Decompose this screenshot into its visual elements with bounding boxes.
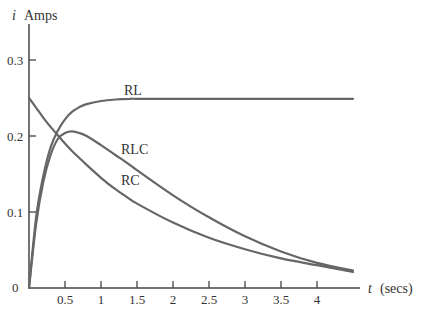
x-tick-label: 2.5 <box>201 292 217 307</box>
x-tick-label: 2 <box>170 292 177 307</box>
x-tick-label: 4 <box>314 292 321 307</box>
chart: 0.10.20.3 0.511.522.533.54 RLRLCRC 0 i A… <box>0 0 435 311</box>
x-tick-label: 1.5 <box>129 292 145 307</box>
y-axis-unit: Amps <box>24 8 57 23</box>
curve-label-rl: RL <box>124 83 142 98</box>
curve-label-rlc: RLC <box>121 142 148 157</box>
y-tick-label: 0.1 <box>7 205 23 220</box>
curve-rc <box>29 98 353 272</box>
x-tick-label: 1 <box>98 292 105 307</box>
origin-label: 0 <box>12 280 19 295</box>
x-ticks: 0.511.522.533.54 <box>57 281 321 307</box>
x-axis-var: t <box>368 281 373 296</box>
y-axis-var: i <box>12 8 16 23</box>
x-tick-label: 3.5 <box>273 292 289 307</box>
y-tick-label: 0.3 <box>7 53 23 68</box>
x-tick-label: 0.5 <box>57 292 73 307</box>
y-tick-label: 0.2 <box>7 129 23 144</box>
curves <box>29 98 353 288</box>
y-ticks: 0.10.20.3 <box>7 53 36 220</box>
x-axis-unit: (secs) <box>380 281 413 297</box>
x-tick-label: 3 <box>242 292 249 307</box>
curve-label-rc: RC <box>121 173 140 188</box>
